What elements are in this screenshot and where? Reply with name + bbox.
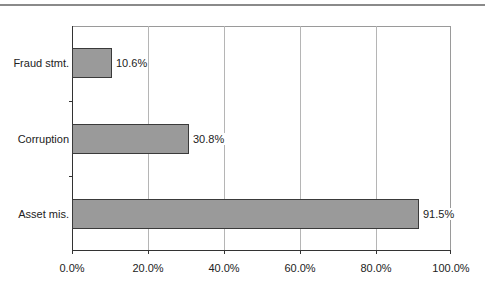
x-tick — [224, 251, 225, 254]
category-label: Asset mis. — [18, 208, 69, 220]
y-tick — [69, 176, 72, 177]
top-rule — [0, 4, 485, 6]
bar-corruption — [72, 124, 189, 154]
value-label: 91.5% — [422, 208, 455, 220]
category-label: Corruption — [18, 133, 69, 145]
x-tick-label: 100.0% — [432, 262, 469, 274]
category-label: Fraud stmt. — [13, 57, 69, 69]
x-tick-label: 20.0% — [132, 262, 163, 274]
x-tick — [376, 251, 377, 254]
y-tick — [69, 101, 72, 102]
x-tick — [300, 251, 301, 254]
plot-frame-top — [72, 26, 451, 27]
value-label: 30.8% — [192, 133, 225, 145]
value-label: 10.6% — [115, 57, 148, 69]
x-tick — [148, 251, 149, 254]
plot-area: 10.6% 30.8% 91.5% — [72, 26, 451, 251]
x-tick-label: 40.0% — [208, 262, 239, 274]
x-tick-label: 80.0% — [360, 262, 391, 274]
bar-fraud-stmt — [72, 48, 112, 78]
x-axis — [72, 250, 451, 251]
x-tick — [450, 251, 451, 254]
bar-asset-mis — [72, 199, 419, 229]
x-tick-label: 60.0% — [284, 262, 315, 274]
x-tick — [72, 251, 73, 254]
x-tick-label: 0.0% — [59, 262, 84, 274]
